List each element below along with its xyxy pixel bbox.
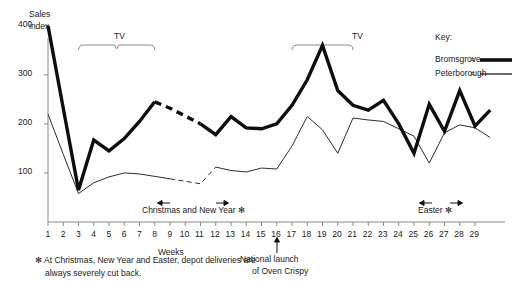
x-tick-label: 27 — [439, 230, 448, 240]
x-tick-label: 17 — [287, 230, 296, 240]
x-tick-label: 8 — [152, 230, 157, 240]
footnote-line2: always severely cut back. — [45, 267, 141, 279]
x-tick-label: 24 — [393, 230, 402, 240]
x-tick-label: 4 — [91, 230, 96, 240]
x-tick-label: 29 — [470, 230, 479, 240]
y-axis-ticks — [44, 26, 48, 173]
x-tick-label: 16 — [271, 230, 280, 240]
x-tick-label: 1 — [46, 230, 51, 240]
x-tick-label: 22 — [363, 230, 372, 240]
tv-bracket-1 — [79, 45, 155, 50]
easter-annotation-label: Easter ✻ — [418, 206, 452, 216]
x-tick-label: 15 — [256, 230, 265, 240]
y-tick-label: 400 — [18, 20, 32, 30]
x-axis-ticks — [48, 222, 475, 226]
launch-arrow — [275, 238, 280, 254]
x-tick-label: 19 — [317, 230, 326, 240]
x-tick-label: 14 — [241, 230, 250, 240]
x-tick-label: 9 — [168, 230, 173, 240]
y-tick-label: 200 — [18, 118, 32, 128]
x-tick-label: 11 — [195, 230, 204, 240]
x-tick-label: 26 — [424, 230, 433, 240]
x-tick-label: 6 — [122, 230, 127, 240]
x-tick-label: 7 — [137, 230, 142, 240]
x-tick-label: 23 — [378, 230, 387, 240]
x-tick-label: 3 — [76, 230, 81, 240]
christmas-annotation-label: Christmas and New Year ✻ — [142, 206, 245, 216]
launch-annotation-line2: of Oven Crispy — [252, 267, 308, 277]
x-tick-label: 21 — [348, 230, 357, 240]
x-tick-label: 12 — [210, 230, 219, 240]
x-tick-label: 2 — [61, 230, 66, 240]
legend-label-peterborough: Peterborough — [435, 69, 487, 79]
x-tick-label: 5 — [107, 230, 112, 240]
x-tick-label: 18 — [302, 230, 311, 240]
legend-separator-bromsgrove: = — [470, 55, 475, 65]
legend-title: Key: — [435, 33, 452, 43]
y-tick-label: 100 — [18, 167, 32, 177]
x-tick-label: 20 — [332, 230, 341, 240]
y-axis-title-line1: Sales — [29, 10, 50, 20]
x-tick-label: 13 — [226, 230, 235, 240]
y-tick-label: 300 — [18, 69, 32, 79]
footnote-line1: ✻ At Christmas, New Year and Easter, dep… — [35, 254, 256, 266]
tv-label-1: TV — [114, 32, 125, 42]
sales-index-line-chart: Sales index Weeks 400300200100 123456789… — [0, 0, 513, 282]
tv-label-2: TV — [352, 32, 363, 42]
x-tick-label: 25 — [409, 230, 418, 240]
series-bromsgrove — [48, 26, 490, 190]
legend-separator-peterborough: = — [470, 69, 475, 79]
x-tick-label: 28 — [454, 230, 463, 240]
x-tick-label: 10 — [180, 230, 189, 240]
